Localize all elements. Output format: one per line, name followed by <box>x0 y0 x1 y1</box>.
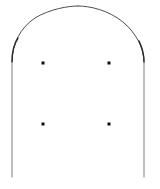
arch-figure-svg <box>0 0 160 189</box>
dot-bottom-right <box>108 123 111 126</box>
dot-bottom-left <box>42 123 45 126</box>
dot-top-left <box>42 62 45 65</box>
drawing-canvas <box>0 0 160 189</box>
dot-top-right <box>108 62 111 65</box>
